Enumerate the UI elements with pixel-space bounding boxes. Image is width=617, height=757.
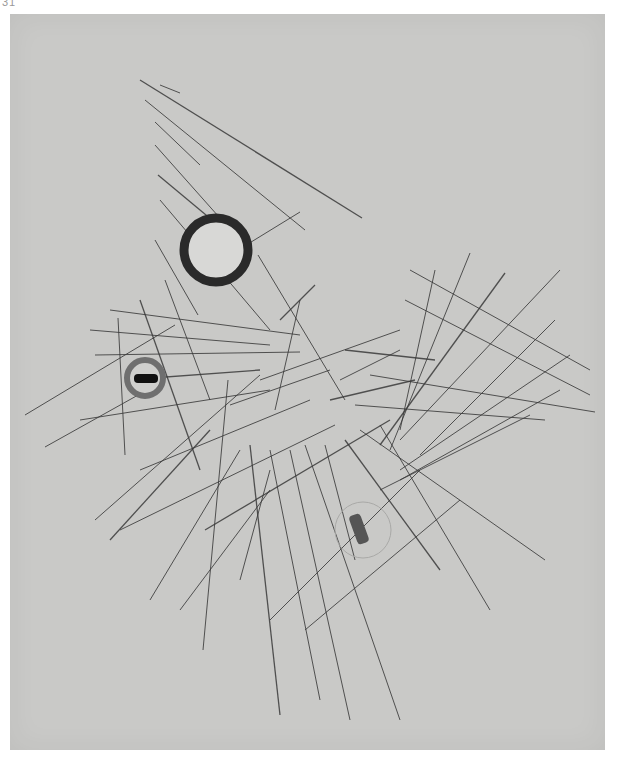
drawn-line xyxy=(80,390,270,420)
drawn-line xyxy=(410,270,590,370)
large-dark-ring xyxy=(184,218,248,282)
drawn-line xyxy=(360,430,545,560)
drawn-line xyxy=(150,450,240,600)
drawn-line xyxy=(345,440,440,570)
drawn-line xyxy=(118,318,125,455)
drawn-line xyxy=(290,450,350,720)
drawn-line xyxy=(380,425,490,610)
drawn-line xyxy=(120,425,335,530)
drawn-line xyxy=(250,445,280,715)
drawn-line xyxy=(325,445,355,560)
drawn-line xyxy=(420,320,555,455)
drawn-line xyxy=(330,380,415,400)
drawn-line xyxy=(260,330,400,380)
drawn-line xyxy=(390,253,470,450)
drawn-line xyxy=(155,122,200,165)
gray-capsule xyxy=(348,513,370,545)
drawn-line xyxy=(140,80,362,218)
drawn-line xyxy=(275,300,300,410)
drawn-line xyxy=(95,375,260,520)
drawn-line xyxy=(400,390,560,480)
drawn-line xyxy=(280,285,315,320)
drawn-line xyxy=(160,85,180,93)
drawn-line xyxy=(380,273,505,445)
drawn-line xyxy=(258,255,345,400)
drawn-line xyxy=(355,405,545,420)
drawn-line xyxy=(405,300,590,395)
abstract-line-drawing xyxy=(0,0,617,757)
black-bar xyxy=(134,374,158,383)
drawn-line xyxy=(165,280,210,400)
drawn-line xyxy=(400,270,435,430)
drawn-line xyxy=(203,380,228,650)
drawn-line xyxy=(270,470,420,620)
drawn-line xyxy=(110,310,300,335)
drawn-line xyxy=(230,370,330,405)
drawn-line xyxy=(90,330,270,345)
